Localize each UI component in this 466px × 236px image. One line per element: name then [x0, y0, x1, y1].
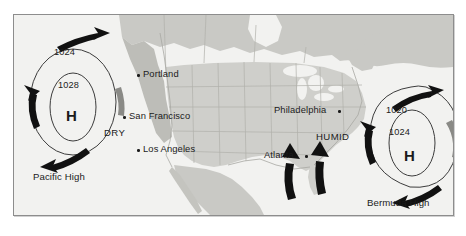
city-dot-san-francisco [123, 116, 126, 119]
map-frame: 1024 1028 H Pacific High 1020 1024 H Ber… [13, 14, 454, 216]
city-dot-philadelphia [338, 110, 341, 113]
system-name-bermuda-high: Bermuda High [367, 197, 430, 208]
city-label-philadelphia: Philadelphia [274, 104, 326, 115]
pacific-isobar-1024 [30, 49, 116, 155]
city-label-los-angeles: Los Angeles [143, 143, 195, 154]
isobar-label-bermuda-inner: 1024 [389, 127, 410, 137]
city-dot-portland [137, 74, 140, 77]
bermuda-isobar-1024 [389, 110, 435, 176]
air-mass-label-dry: DRY [104, 127, 125, 138]
lake-huron [308, 75, 324, 91]
isobar-label-pacific-inner: 1028 [58, 80, 79, 90]
city-label-atlanta: Atlanta [264, 149, 294, 160]
high-symbol-pacific: H [66, 107, 77, 124]
air-mass-label-humid: HUMID [316, 131, 349, 142]
system-name-pacific-high: Pacific High [33, 171, 85, 182]
lake-ontario [328, 86, 344, 93]
city-dot-atlanta [305, 155, 308, 158]
city-dot-los-angeles [137, 149, 140, 152]
weather-map-figure: 1024 1028 H Pacific High 1020 1024 H Ber… [0, 0, 466, 236]
bermuda-arrow-east [446, 120, 453, 159]
canada-landmass [119, 15, 453, 68]
lake-michigan [297, 78, 307, 100]
lake-erie [314, 93, 334, 101]
city-label-portland: Portland [143, 68, 179, 79]
city-label-san-francisco: San Francisco [129, 110, 190, 121]
map-graphics [14, 15, 453, 215]
isobar-label-pacific-outer: 1024 [54, 47, 75, 57]
high-symbol-bermuda: H [404, 147, 415, 164]
lake-superior [283, 65, 317, 77]
humid-arrow-gulf-west [284, 163, 296, 200]
isobar-label-bermuda-outer: 1020 [386, 105, 407, 115]
western-cordillera [122, 37, 172, 143]
